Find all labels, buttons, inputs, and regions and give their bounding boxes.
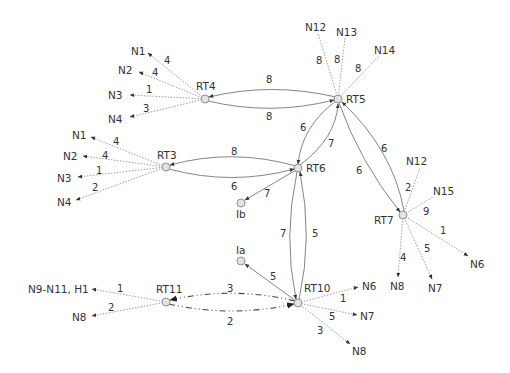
network-label-n7: N7	[360, 310, 375, 322]
interface-label: Ia	[236, 244, 246, 256]
network-label-n14: N14	[374, 44, 396, 56]
cost-label: 1	[96, 165, 102, 176]
network-label-n2: N2	[118, 64, 133, 76]
interface-label: Ib	[236, 208, 246, 220]
cost-label: 8	[334, 54, 340, 65]
link-cost-rt10-ia: 5	[270, 271, 276, 282]
router-label: RT5	[346, 93, 366, 105]
network-label-n4: N4	[57, 196, 72, 208]
router-label: RT10	[304, 282, 330, 294]
link-cost-rt7-rt5: 6	[381, 143, 387, 154]
link-cost-rt6-rt5: 7	[328, 138, 334, 149]
interface-ib: Ib	[236, 199, 246, 220]
link-cost-rt4-rt5: 8	[266, 111, 272, 122]
rt11-stub-links	[92, 289, 166, 316]
cost-label: 9	[423, 206, 429, 217]
network-label-n7: N7	[428, 282, 443, 294]
network-label-n1: N1	[72, 129, 87, 141]
network-label-n6: N6	[470, 258, 485, 270]
link-cost-rt6-ib: 7	[264, 188, 270, 199]
network-label-n12: N12	[305, 21, 326, 33]
link-cost-rt11-rt10: 2	[227, 316, 233, 327]
network-label-n4: N4	[108, 113, 123, 125]
router-label: RT11	[156, 283, 182, 295]
router-links	[169, 90, 404, 312]
cost-label: 4	[102, 150, 108, 161]
router-node-icon	[294, 164, 302, 172]
cost-label: 8	[316, 55, 322, 66]
cost-label: 1	[146, 84, 152, 95]
link-cost-rt5-rt7: 6	[356, 165, 362, 176]
network-label-n13: N13	[336, 26, 357, 38]
cost-label: 3	[317, 325, 323, 336]
cost-label: 4	[113, 136, 119, 147]
router-rt11: RT11	[156, 283, 182, 306]
cost-label: 1	[117, 283, 123, 294]
router-node-icon	[201, 95, 209, 103]
cost-label: 5	[424, 243, 430, 254]
link-cost-rt5-rt6: 6	[300, 122, 306, 133]
interface-node-icon	[237, 199, 245, 207]
cost-label: 4	[400, 252, 406, 263]
router-node-icon	[399, 211, 407, 219]
cost-label: 2	[92, 182, 98, 193]
rt3-stub-links	[76, 137, 166, 200]
network-label-n2: N2	[63, 150, 78, 162]
cost-label: 4	[152, 67, 158, 78]
network-label-n9-n11-h1: N9-N11, H1	[28, 283, 89, 295]
cost-label: 8	[355, 63, 361, 74]
network-label-n3: N3	[57, 172, 72, 184]
cost-label: 1	[440, 225, 446, 236]
router-label: RT7	[374, 214, 394, 226]
network-label-n3: N3	[108, 89, 123, 101]
network-label-n8: N8	[352, 345, 367, 357]
router-node-icon	[294, 299, 302, 307]
network-label-n15: N15	[433, 185, 454, 197]
cost-label: 3	[143, 103, 149, 114]
rt5-stub-links	[318, 33, 379, 99]
router-rt5: RT5	[334, 93, 366, 105]
router-label: RT6	[306, 162, 326, 174]
cost-label: 2	[405, 182, 411, 193]
interface-ia: Ia	[236, 244, 246, 265]
link-cost-rt6-rt3: 8	[231, 146, 237, 157]
interface-node-icon	[237, 257, 245, 265]
link-cost-rt3-rt6: 6	[231, 181, 237, 192]
router-label: RT4	[196, 80, 216, 92]
router-label: RT3	[157, 149, 177, 161]
cost-label: 5	[329, 311, 335, 322]
network-diagram: N1 N2 N3 N4 4 4 1 3 N1 N2 N3 N4 4 4 1 2 …	[0, 0, 510, 373]
rt10-stub-links	[298, 287, 358, 344]
router-node-icon	[162, 163, 170, 171]
network-label-n1: N1	[131, 45, 146, 57]
link-cost-rt6-rt10: 7	[280, 228, 286, 239]
cost-label: 2	[108, 302, 114, 313]
network-label-n8: N8	[390, 280, 405, 292]
router-rt4: RT4	[196, 80, 216, 103]
router-rt10: RT10	[294, 282, 330, 307]
link-cost-rt10-rt11: 3	[227, 283, 233, 294]
router-rt7: RT7	[374, 211, 407, 226]
router-rt6: RT6	[294, 162, 326, 174]
router-node-icon	[334, 95, 342, 103]
link-cost-rt5-rt4: 8	[266, 74, 272, 85]
cost-label: 4	[164, 55, 170, 66]
network-label-n6: N6	[362, 280, 377, 292]
cost-label: 1	[340, 293, 346, 304]
router-node-icon	[162, 298, 170, 306]
network-label-n12: N12	[406, 155, 427, 167]
network-label-n8: N8	[72, 311, 87, 323]
link-cost-rt10-rt6: 5	[312, 228, 318, 239]
